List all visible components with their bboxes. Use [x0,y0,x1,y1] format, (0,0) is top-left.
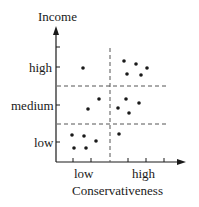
data-point [137,101,141,105]
data-point [145,66,149,70]
x-tick-label-high: high [132,167,155,180]
y-axis-title: Income [38,10,77,23]
data-point [82,134,86,138]
data-point [122,59,126,63]
x-tick-label-low: low [74,167,94,180]
data-point [124,97,128,101]
data-point [94,139,98,143]
data-point [81,66,85,70]
data-point [139,73,143,77]
data-point [84,146,88,150]
data-point [97,97,101,101]
x-axis-arrow-icon [177,159,186,165]
data-point [125,72,129,76]
data-point [116,106,120,110]
data-point [127,111,131,115]
y-tick-label-medium: medium [11,99,54,112]
axes [56,32,180,162]
y-tick-label-high: high [29,61,52,74]
x-axis-title: Conservativeness [72,184,163,197]
data-point [134,62,138,66]
data-point [86,107,90,111]
y-tick-label-low: low [34,136,54,149]
data-point [70,133,74,137]
divider-lines [57,48,166,162]
y-axis-arrow-icon [53,26,59,35]
data-point [72,146,76,150]
data-point [117,132,121,136]
